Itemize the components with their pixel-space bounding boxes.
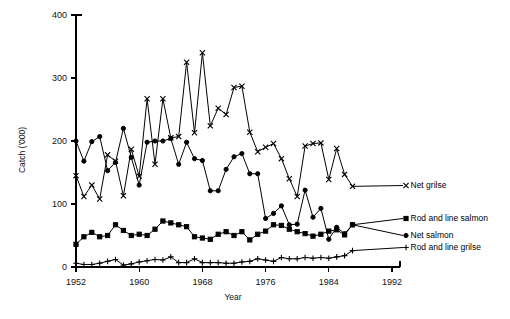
data-point-marker [310, 255, 316, 261]
data-point-marker [318, 255, 324, 261]
data-point-marker [90, 230, 94, 234]
data-point-marker [295, 222, 299, 226]
y-tick-label: 400 [52, 10, 67, 20]
data-point-marker [129, 261, 135, 267]
x-tick-label: 1968 [192, 277, 212, 287]
legend-label: Net salmon [411, 230, 454, 240]
data-point-marker [279, 223, 283, 227]
data-point-marker [113, 223, 117, 227]
data-point-marker [287, 176, 292, 181]
data-point-marker [263, 257, 269, 263]
y-axis-tick-labels: 0100200300400 [52, 10, 67, 272]
data-point-marker [326, 255, 332, 261]
y-axis-title: Catch ('000) [17, 127, 27, 173]
data-point-marker [271, 259, 277, 265]
data-point-marker [185, 140, 189, 144]
data-point-marker [216, 232, 220, 236]
data-point-marker [153, 227, 157, 231]
series-rod-and-line-salmon [74, 219, 355, 247]
data-point-marker [342, 172, 347, 177]
data-point-marker [342, 253, 348, 259]
data-point-marker [208, 260, 214, 266]
x-tick-label: 1952 [66, 277, 86, 287]
data-point-marker [327, 229, 331, 233]
data-point-marker [169, 136, 173, 140]
data-point-marker [184, 260, 190, 266]
data-point-marker [82, 159, 86, 163]
data-point-marker [144, 258, 150, 264]
data-point-marker [279, 204, 283, 208]
data-point-marker [232, 155, 236, 159]
x-tick-label: 1992 [382, 277, 402, 287]
legend-entry-net-salmon: Net salmon [404, 230, 454, 240]
data-point-marker [145, 140, 149, 144]
data-point-marker [287, 256, 293, 262]
data-point-marker [279, 156, 284, 161]
data-point-marker [334, 254, 340, 260]
data-point-marker [169, 221, 173, 225]
data-point-marker [208, 189, 212, 193]
legend-connector [353, 248, 404, 251]
data-point-marker [271, 223, 275, 227]
legend-entry-net-grilse: Net grilse [403, 180, 446, 190]
data-point-marker [224, 112, 229, 117]
data-point-marker [129, 233, 133, 237]
legend-label: Rod and line salmon [411, 213, 489, 223]
data-point-marker [279, 255, 285, 261]
legend-connector [353, 219, 404, 225]
x-axis-tick-labels: 195219601968197619841992 [66, 277, 402, 287]
legend-label: Rod and line grilse [411, 242, 482, 252]
x-tick-label: 1976 [256, 277, 276, 287]
line-chart: 0100200300400 195219601968197619841992 N… [0, 0, 510, 319]
data-point-marker [81, 194, 86, 199]
data-point-marker [129, 155, 133, 159]
series-rod-and-line-grilse [73, 248, 355, 268]
data-point-marker [319, 206, 323, 210]
data-point-marker [302, 255, 308, 261]
data-point-marker [335, 228, 339, 232]
data-point-marker [232, 233, 236, 237]
chart-container: 0100200300400 195219601968197619841992 N… [0, 0, 510, 319]
data-point-marker [263, 145, 268, 150]
legend-entry-rod-and-line-grilse: Rod and line grilse [403, 242, 481, 252]
data-point-marker [192, 235, 196, 239]
data-point-marker [295, 230, 299, 234]
data-point-marker [74, 242, 78, 246]
data-point-marker [224, 167, 228, 171]
data-point-marker [121, 126, 125, 130]
data-point-marker [231, 260, 237, 266]
data-point-marker [327, 237, 331, 241]
data-point-marker [136, 259, 142, 265]
data-point-marker [145, 233, 149, 237]
data-point-marker [97, 260, 103, 266]
data-point-marker [255, 256, 261, 262]
data-point-marker [200, 260, 206, 266]
data-point-marker [343, 233, 347, 237]
data-point-marker [216, 106, 221, 111]
data-point-marker [177, 223, 181, 227]
data-point-marker [256, 232, 260, 236]
data-point-marker [224, 230, 228, 234]
y-tick-label: 100 [52, 199, 67, 209]
series-path [76, 53, 353, 199]
data-point-marker [294, 256, 300, 262]
legend-connector [353, 225, 404, 236]
data-point-marker [240, 230, 244, 234]
legend-connector [353, 186, 404, 187]
data-point-marker [271, 141, 276, 146]
y-tick-label: 300 [52, 73, 67, 83]
data-point-marker [255, 149, 260, 154]
y-tick-label: 200 [52, 136, 67, 146]
data-point-marker [311, 234, 315, 238]
data-point-marker [137, 183, 141, 187]
data-point-marker [303, 232, 307, 236]
data-point-marker [98, 134, 102, 138]
data-point-marker [74, 139, 78, 143]
data-point-marker [216, 189, 220, 193]
data-point-marker [248, 238, 252, 242]
data-point-marker [264, 229, 268, 233]
series-net-grilse [73, 50, 355, 201]
data-point-marker [161, 219, 165, 223]
data-point-marker [247, 259, 253, 265]
data-series [73, 50, 355, 268]
